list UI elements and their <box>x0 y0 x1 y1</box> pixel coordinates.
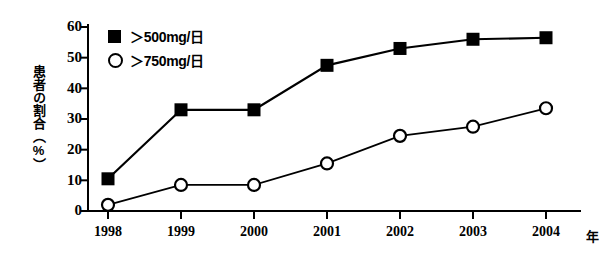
data-point-circle <box>175 179 187 191</box>
data-point-square <box>102 172 115 185</box>
plot-area <box>0 0 616 264</box>
series-very-high-dose <box>102 102 552 211</box>
data-series-layer <box>102 31 553 211</box>
data-point-circle <box>394 130 406 142</box>
data-point-square <box>467 33 480 46</box>
data-point-square <box>321 59 334 72</box>
data-point-circle <box>540 102 552 114</box>
data-point-circle <box>321 157 333 169</box>
data-point-circle <box>467 121 479 133</box>
data-point-square <box>248 103 261 116</box>
data-point-circle <box>102 199 114 211</box>
y-axis-ticks <box>81 27 88 211</box>
data-point-circle <box>248 179 260 191</box>
chart-container: 患者の割合（%） 年 60 50 40 30 20 10 0 1998 1999… <box>0 0 616 264</box>
data-point-square <box>540 31 553 44</box>
data-point-square <box>394 42 407 55</box>
x-axis-ticks <box>108 211 546 219</box>
data-point-square <box>175 103 188 116</box>
